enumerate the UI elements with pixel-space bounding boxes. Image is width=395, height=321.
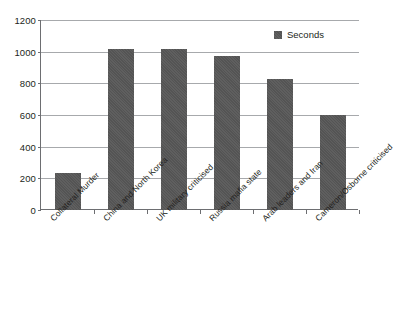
- y-tick-label: 200: [20, 173, 36, 184]
- x-tick-mark: [147, 210, 148, 214]
- x-tick-mark: [200, 210, 201, 214]
- y-tick-label: 1200: [14, 15, 36, 26]
- x-tick-mark: [359, 210, 360, 214]
- y-tick-mark: [38, 210, 41, 211]
- y-tick-label: 400: [20, 141, 36, 152]
- x-tick-mark: [253, 210, 254, 214]
- y-tick-label: 1000: [14, 46, 36, 57]
- y-tick-label: 800: [20, 78, 36, 89]
- y-tick-label: 0: [31, 205, 36, 216]
- x-tick-mark: [94, 210, 95, 214]
- y-tick-label: 600: [20, 110, 36, 121]
- x-tick-mark: [306, 210, 307, 214]
